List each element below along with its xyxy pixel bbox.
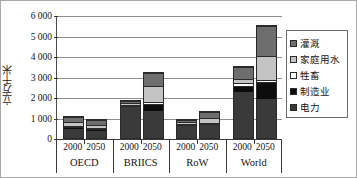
x-axis-minor-separator — [141, 139, 142, 144]
legend-item[interactable]: 家庭用水 — [290, 51, 347, 67]
legend-label: 灌溉 — [300, 38, 320, 49]
x-region-label-oecd: OECD — [56, 156, 113, 169]
bar-oecd-2050[interactable] — [86, 119, 107, 139]
bar-segment — [87, 131, 106, 138]
y-axis-title: 立方千米 — [2, 39, 16, 131]
x-axis-minor-separator — [254, 139, 255, 144]
y-tick-label: 6 000 — [31, 11, 52, 21]
bar-segment — [200, 125, 219, 138]
bar-segment — [257, 26, 276, 56]
bar-world-2000[interactable] — [233, 66, 254, 139]
bar-segment — [177, 126, 196, 138]
legend-item[interactable]: 牲畜 — [290, 67, 347, 83]
chart-legend: 灌溉家庭用水牲畜制造业电力 — [286, 30, 348, 118]
y-axis-tick-labels: 01 0002 0003 0004 0005 0006 000 — [15, 11, 55, 144]
bar-segment — [234, 92, 253, 138]
bar-world-2050[interactable] — [256, 25, 277, 139]
bar-segment — [64, 129, 83, 138]
y-tick-label: 5 000 — [31, 32, 52, 42]
x-region-label-world: World — [226, 156, 283, 169]
bar-row-2050[interactable] — [199, 111, 220, 139]
x-region-label-row: RoW — [169, 156, 226, 169]
y-tick-label: 1 000 — [31, 114, 52, 124]
x-axis-minor-separator — [84, 139, 85, 144]
legend-label: 电力 — [300, 102, 320, 113]
legend-swatch-icon — [290, 88, 297, 95]
legend-label: 牲畜 — [300, 70, 320, 81]
bar-segment — [257, 56, 276, 80]
bar-segment — [144, 104, 163, 111]
bar-segment — [121, 107, 140, 138]
plot-area — [56, 16, 282, 139]
legend-item[interactable]: 电力 — [290, 99, 347, 115]
legend-label: 制造业 — [300, 86, 330, 97]
bar-segment — [257, 82, 276, 98]
legend-item[interactable]: 制造业 — [290, 83, 347, 99]
legend-swatch-icon — [290, 72, 297, 79]
bar-segment — [144, 73, 163, 87]
bar-segment — [144, 86, 163, 102]
bar-briics-2000[interactable] — [120, 100, 141, 139]
x-year-label: 2050 — [83, 141, 109, 153]
legend-label: 家庭用水 — [300, 54, 340, 65]
bars-layer — [57, 16, 282, 139]
y-tick-label: 2 000 — [31, 93, 52, 103]
x-axis: 20002050200020502000205020002050OECDBRII… — [56, 139, 282, 177]
bar-briics-2050[interactable] — [143, 72, 164, 139]
bar-oecd-2000[interactable] — [63, 116, 84, 139]
x-year-label: 2050 — [139, 141, 165, 153]
legend-swatch-icon — [290, 40, 297, 47]
y-tick-label: 4 000 — [31, 52, 52, 62]
bar-segment — [144, 111, 163, 138]
bar-row-2000[interactable] — [176, 119, 197, 139]
legend-swatch-icon — [290, 56, 297, 63]
bar-segment — [234, 67, 253, 80]
bar-segment — [257, 99, 276, 138]
legend-swatch-icon — [290, 104, 297, 111]
y-tick-label: 3 000 — [31, 73, 52, 83]
stacked-bar-chart: 立方千米 01 0002 0003 0004 0005 0006 000 200… — [0, 0, 357, 178]
legend-item[interactable]: 灌溉 — [290, 35, 347, 51]
x-year-label: 2050 — [196, 141, 222, 153]
x-year-label: 2050 — [252, 141, 278, 153]
x-axis-minor-separator — [197, 139, 198, 144]
x-region-label-briics: BRIICS — [113, 156, 170, 169]
y-tick-label: 0 — [47, 134, 52, 144]
